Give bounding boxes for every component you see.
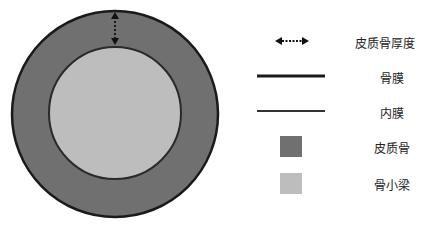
trabecular-bone-core xyxy=(49,47,181,179)
legend-label-periosteum: 骨膜 xyxy=(380,69,404,86)
legend-label-trabecular-bone: 骨小梁 xyxy=(374,176,410,193)
legend-icon-cortical-swatch xyxy=(280,136,302,157)
legend-label-endosteum: 内膜 xyxy=(380,104,404,121)
legend-label-cortical-thickness: 皮质骨厚度 xyxy=(355,34,415,51)
legend-icon-trabecular-swatch xyxy=(280,173,302,194)
legend-icon-thickness-arrow xyxy=(275,37,309,45)
legend-label-cortical-bone: 皮质骨 xyxy=(374,139,410,156)
